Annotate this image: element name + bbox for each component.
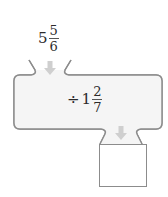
answer-box[interactable] — [99, 144, 147, 187]
function-machine-diagram: 5 5 6 ÷ 1 2 7 — [0, 0, 168, 197]
input-numerator: 5 — [49, 24, 59, 38]
input-denominator: 6 — [49, 39, 59, 53]
operation-denominator: 7 — [92, 100, 102, 114]
operation-fraction: 2 7 — [92, 85, 102, 114]
operation-whole: 1 — [82, 92, 92, 107]
operation-expression: ÷ 1 2 7 — [67, 85, 102, 114]
divide-operator: ÷ — [67, 92, 80, 107]
operation-numerator: 2 — [92, 85, 102, 99]
input-fraction: 5 6 — [49, 24, 59, 53]
input-whole: 5 — [38, 31, 48, 46]
input-mixed-number: 5 5 6 — [38, 24, 59, 53]
